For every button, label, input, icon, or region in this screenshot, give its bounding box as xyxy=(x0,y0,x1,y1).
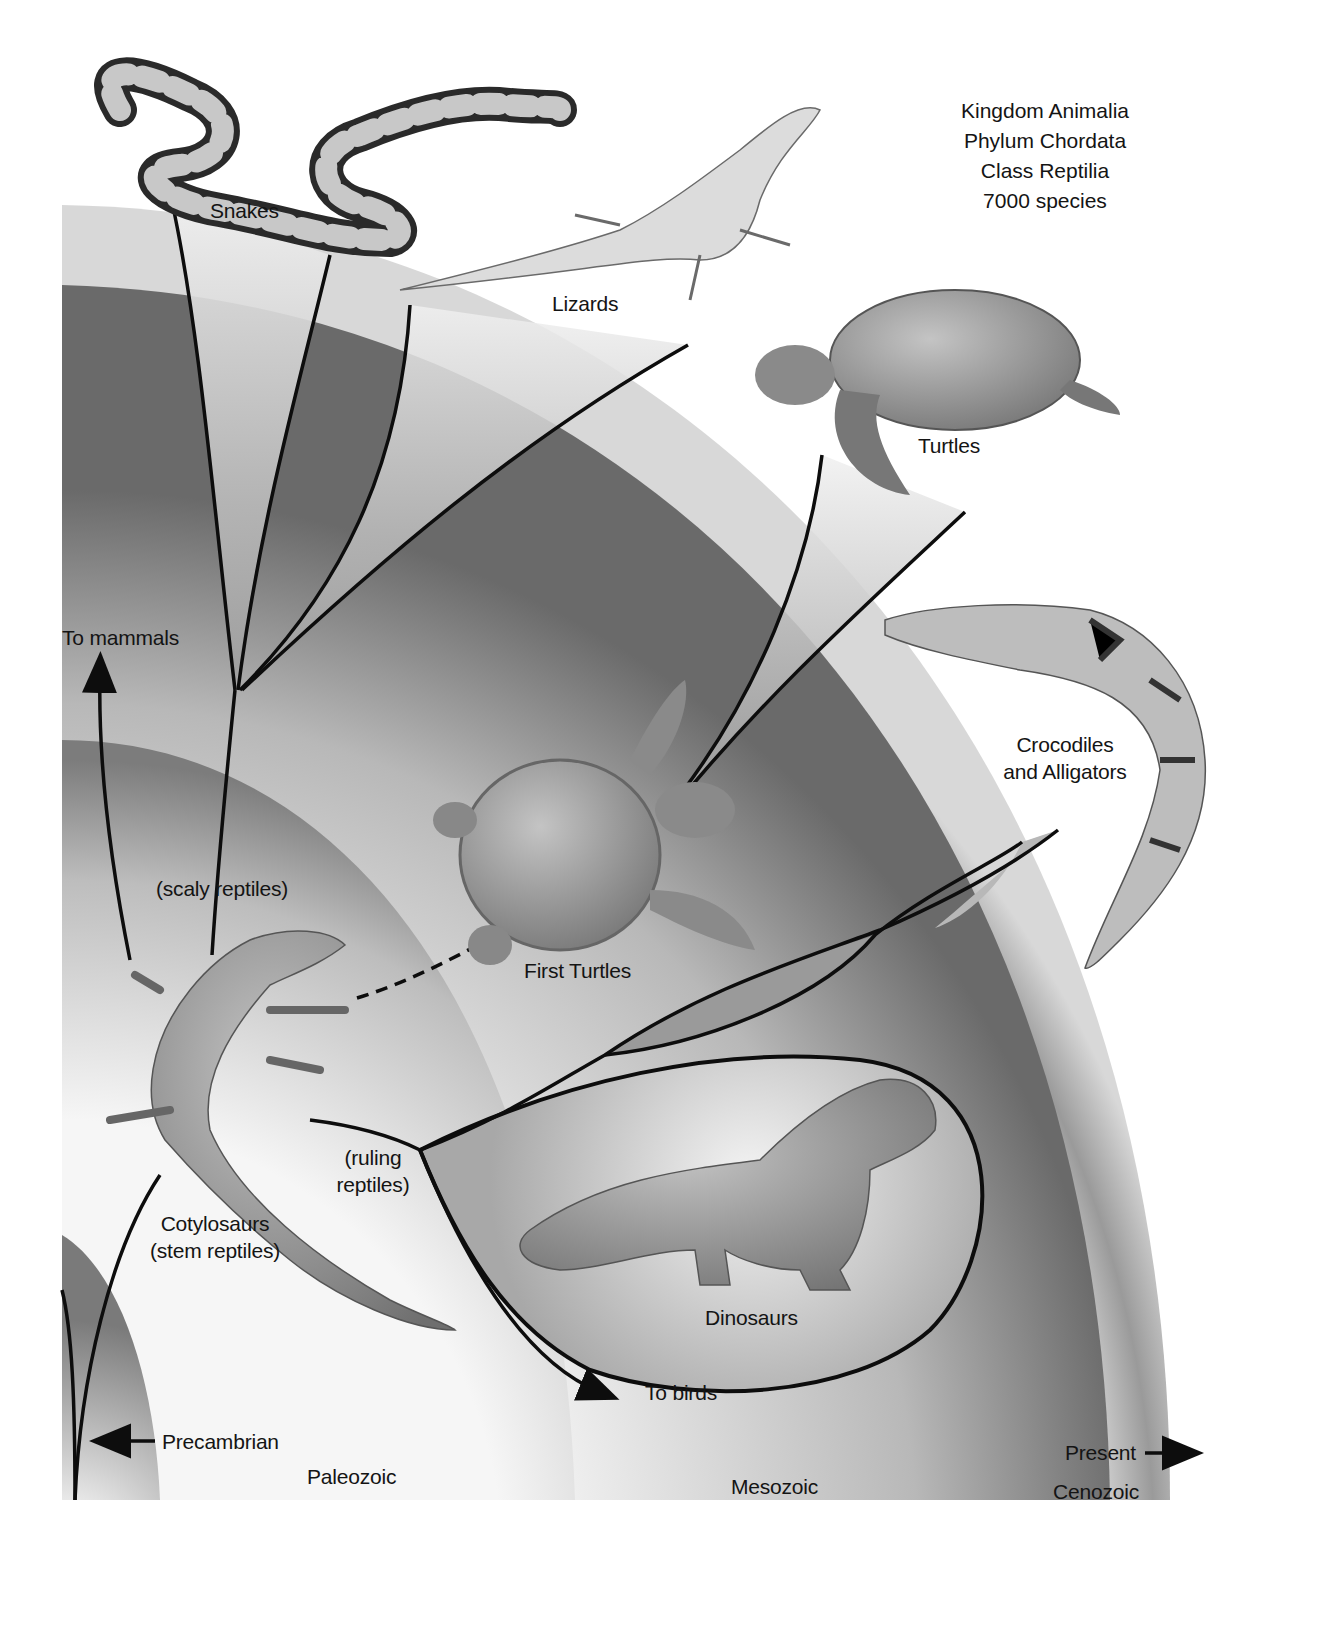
snake-illustration xyxy=(111,74,560,240)
taxonomy-block: Kingdom Animalia Phylum Chordata Class R… xyxy=(930,96,1160,216)
cenozoic-label: Cenozoic xyxy=(1053,1478,1139,1505)
crocodiles-label: Crocodiles and Alligators xyxy=(985,731,1145,785)
sea-turtle-illustration xyxy=(755,290,1120,495)
species-count-label: 7000 species xyxy=(930,186,1160,216)
paleozoic-label: Paleozoic xyxy=(307,1463,396,1490)
dinosaurs-label: Dinosaurs xyxy=(705,1304,798,1331)
class-label: Class Reptilia xyxy=(930,156,1160,186)
mesozoic-label: Mesozoic xyxy=(731,1473,818,1500)
to-birds-label: To birds xyxy=(645,1379,717,1406)
lizard-illustration xyxy=(400,108,820,300)
crocodiles-label-line2: and Alligators xyxy=(985,758,1145,785)
turtles-label: Turtles xyxy=(918,432,980,459)
cotylosaurs-label: Cotylosaurs (stem reptiles) xyxy=(135,1210,295,1264)
ruling-reptiles-label: (ruling reptiles) xyxy=(328,1144,418,1198)
present-label: Present xyxy=(1065,1439,1136,1466)
to-mammals-label: To mammals xyxy=(62,624,179,651)
scaly-reptiles-label: (scaly reptiles) xyxy=(156,875,288,902)
ruling-reptiles-line2: reptiles) xyxy=(328,1171,418,1198)
cotylosaurs-line2: (stem reptiles) xyxy=(135,1237,295,1264)
first-turtles-label: First Turtles xyxy=(524,957,631,984)
ruling-reptiles-line1: (ruling xyxy=(328,1144,418,1171)
crocodiles-label-line1: Crocodiles xyxy=(985,731,1145,758)
kingdom-label: Kingdom Animalia xyxy=(930,96,1160,126)
phylum-label: Phylum Chordata xyxy=(930,126,1160,156)
cotylosaurs-line1: Cotylosaurs xyxy=(135,1210,295,1237)
lizards-label: Lizards xyxy=(552,290,618,317)
precambrian-label: Precambrian xyxy=(162,1428,279,1455)
snakes-label: Snakes xyxy=(210,197,279,224)
